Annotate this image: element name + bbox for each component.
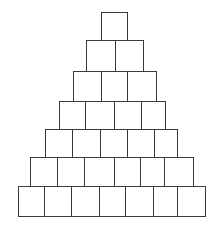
square-cell bbox=[44, 186, 72, 217]
square-cell bbox=[114, 101, 142, 130]
pyramid-diagram bbox=[0, 0, 221, 231]
square-cell bbox=[140, 157, 165, 187]
square-cell bbox=[101, 71, 128, 102]
square-cell bbox=[18, 186, 45, 217]
square-cell bbox=[100, 129, 128, 159]
square-cell bbox=[177, 186, 206, 217]
square-cell bbox=[141, 101, 166, 130]
square-cell bbox=[125, 186, 154, 217]
square-cell bbox=[84, 157, 115, 187]
square-cell bbox=[30, 157, 58, 187]
square-cell bbox=[154, 129, 178, 159]
square-cell bbox=[71, 186, 100, 217]
square-cell bbox=[127, 71, 157, 102]
square-cell bbox=[86, 40, 116, 72]
square-cell bbox=[115, 40, 144, 72]
square-cell bbox=[85, 101, 115, 130]
square-cell bbox=[45, 129, 73, 159]
square-cell bbox=[99, 186, 126, 217]
square-cell bbox=[153, 186, 178, 217]
square-cell bbox=[73, 71, 102, 102]
square-cell bbox=[101, 12, 128, 41]
square-cell bbox=[114, 157, 141, 187]
square-cell bbox=[57, 157, 85, 187]
square-cell bbox=[127, 129, 155, 159]
square-cell bbox=[72, 129, 101, 159]
square-cell bbox=[164, 157, 194, 187]
square-cell bbox=[59, 101, 86, 130]
